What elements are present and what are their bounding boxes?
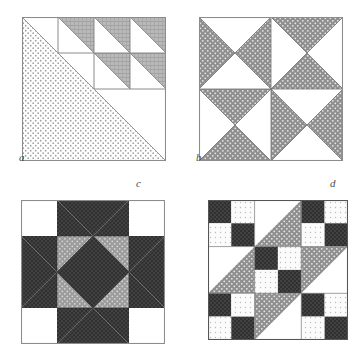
block-d-label: d xyxy=(330,178,336,189)
quilt-block-figure: a xyxy=(0,0,364,360)
block-d-r2c0-tl xyxy=(208,293,231,316)
block-d-r0c0-br xyxy=(231,223,254,246)
block-d-r0c0-tr xyxy=(231,200,254,223)
block-d-unit-r2c2 xyxy=(301,293,348,340)
block-d-r2c0-tr xyxy=(231,293,254,316)
block-d-r1c1-br xyxy=(278,270,301,293)
block-d-r0c0-bl xyxy=(208,223,231,246)
block-d-r0c2-tr xyxy=(325,200,348,223)
block-d-unit-r1c0 xyxy=(208,247,255,294)
block-c-label: c xyxy=(136,178,141,189)
quilt-block-a-canvas xyxy=(22,17,166,161)
block-b-seam-lines xyxy=(199,17,343,161)
quilt-block-d-canvas xyxy=(208,200,348,340)
block-a-label: a xyxy=(19,152,25,163)
block-d-unit-r1c1 xyxy=(255,247,302,294)
block-d-unit-r2c0 xyxy=(208,293,255,340)
quilt-block-c-canvas xyxy=(21,200,165,344)
block-d-r1c1-tr xyxy=(278,247,301,270)
quilt-block-c xyxy=(21,200,165,344)
quilt-block-d xyxy=(208,200,348,340)
block-d-unit-r1c2 xyxy=(301,247,348,294)
quilt-block-a xyxy=(22,17,166,161)
block-d-r0c2-tl xyxy=(301,200,324,223)
block-d-r0c0-tl xyxy=(208,200,231,223)
block-d-r0c2-bl xyxy=(301,223,324,246)
block-d-r2c0-bl xyxy=(208,317,231,340)
block-d-r2c2-tl xyxy=(301,293,324,316)
block-d-r0c2-br xyxy=(325,223,348,246)
block-d-r1c1-tl xyxy=(255,247,278,270)
block-d-r1c1-bl xyxy=(255,270,278,293)
block-d-r2c0-br xyxy=(231,317,254,340)
block-d-unit-r0c0 xyxy=(208,200,255,247)
block-d-unit-r2c1 xyxy=(255,293,302,340)
block-d-r2c2-bl xyxy=(301,317,324,340)
block-d-r2c2-tr xyxy=(325,293,348,316)
block-d-r2c2-br xyxy=(325,317,348,340)
block-d-unit-r0c2 xyxy=(301,200,348,247)
block-b-label: b xyxy=(196,152,202,163)
quilt-block-b-canvas xyxy=(199,17,343,161)
block-d-unit-r0c1 xyxy=(255,200,302,247)
quilt-block-b xyxy=(199,17,343,161)
